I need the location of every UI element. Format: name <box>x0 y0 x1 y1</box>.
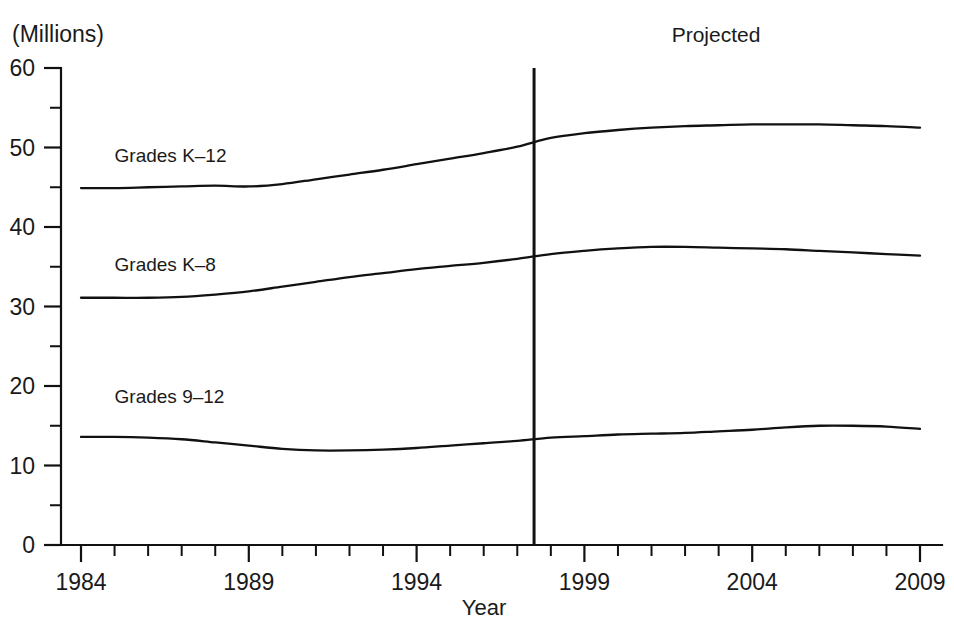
y-axis-tick-labels: 0102030405060 <box>9 55 35 558</box>
series-label-grades-k-12: Grades K–12 <box>115 145 227 166</box>
x-tick-label: 1984 <box>55 569 106 595</box>
y-tick-label: 20 <box>9 373 35 399</box>
x-tick-label: 1989 <box>223 569 274 595</box>
x-axis-ticks <box>81 545 920 562</box>
x-tick-label: 2009 <box>894 569 945 595</box>
y-tick-label: 50 <box>9 135 35 161</box>
units-label: (Millions) <box>12 21 104 47</box>
series-label-grades-9-12: Grades 9–12 <box>115 386 225 407</box>
chart-annotations: Projected <box>672 23 761 46</box>
x-tick-label: 1994 <box>391 569 442 595</box>
series-inline-labels: Grades K–12Grades K–8Grades 9–12 <box>115 145 227 408</box>
enrollment-line-chart: 0102030405060 198419891994199920042009 G… <box>0 0 954 630</box>
y-tick-label: 10 <box>9 453 35 479</box>
series-line-grades-9-12 <box>81 426 920 451</box>
y-tick-label: 0 <box>22 532 35 558</box>
x-axis-tick-labels: 198419891994199920042009 <box>55 569 945 595</box>
series-label-grades-k-8: Grades K–8 <box>115 254 216 275</box>
annotation-projected: Projected <box>672 23 761 46</box>
x-tick-label: 1999 <box>559 569 610 595</box>
x-axis-title: Year <box>462 595 506 620</box>
y-axis-ticks <box>44 68 61 545</box>
chart-canvas: 0102030405060 198419891994199920042009 G… <box>0 0 954 630</box>
y-tick-label: 30 <box>9 294 35 320</box>
axis-group <box>61 68 942 545</box>
y-tick-label: 40 <box>9 214 35 240</box>
x-tick-label: 2004 <box>727 569 778 595</box>
y-tick-label: 60 <box>9 55 35 81</box>
